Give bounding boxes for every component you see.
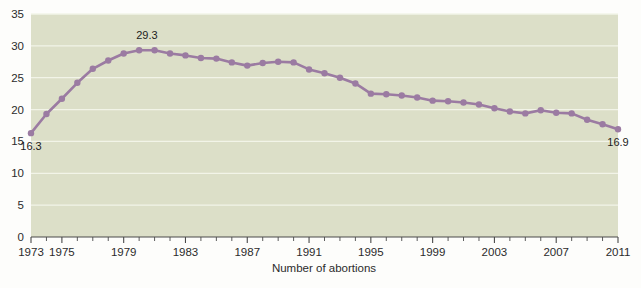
data-point-value-label: 16.9: [607, 136, 628, 148]
data-point-marker: [213, 55, 219, 61]
plot-area-background: [31, 14, 618, 237]
x-axis-tick-label: 1979: [111, 246, 137, 258]
x-axis-tick-marks: [31, 237, 618, 243]
data-point-marker: [260, 60, 266, 66]
x-axis-tick-labels: 1973197519791983198719911995199920032007…: [18, 246, 630, 258]
x-axis-tick-label: 1991: [296, 246, 322, 258]
x-axis-title: Number of abortions: [272, 262, 376, 274]
data-point-marker: [275, 59, 281, 65]
data-point-marker: [460, 99, 466, 105]
data-point-marker: [383, 91, 389, 97]
data-point-marker: [522, 110, 528, 116]
y-axis-tick-label: 5: [18, 199, 24, 211]
x-axis-tick-label: 1999: [420, 246, 446, 258]
data-point-marker: [105, 57, 111, 63]
y-axis-tick-label: 10: [11, 167, 24, 179]
data-point-marker: [28, 130, 34, 136]
data-point-marker: [244, 62, 250, 68]
data-point-marker: [538, 107, 544, 113]
data-point-marker: [399, 92, 405, 98]
data-point-marker: [553, 110, 559, 116]
data-point-marker: [182, 52, 188, 58]
data-point-marker: [306, 66, 312, 72]
data-point-marker: [74, 80, 80, 86]
data-point-marker: [151, 47, 157, 53]
data-point-marker: [321, 70, 327, 76]
x-axis-tick-label: 1975: [49, 246, 75, 258]
data-point-marker: [507, 108, 513, 114]
data-point-marker: [167, 50, 173, 56]
x-axis-tick-label: 2007: [543, 246, 569, 258]
data-point-marker: [198, 55, 204, 61]
data-point-value-label: 29.3: [136, 29, 157, 41]
x-axis-tick-label: 2011: [606, 246, 631, 258]
chart-container: 05101520253035 1973197519791983198719911…: [0, 0, 641, 288]
data-point-marker: [59, 96, 65, 102]
data-point-marker: [414, 94, 420, 100]
data-point-marker: [445, 98, 451, 104]
x-axis-tick-label: 1987: [234, 246, 260, 258]
data-point-marker: [136, 47, 142, 53]
y-axis-tick-label: 20: [11, 104, 24, 116]
line-chart: 05101520253035 1973197519791983198719911…: [0, 0, 641, 288]
x-axis-tick-label: 1995: [358, 246, 384, 258]
data-point-marker: [337, 75, 343, 81]
data-point-marker: [43, 111, 49, 117]
data-point-marker: [476, 101, 482, 107]
data-point-marker: [368, 90, 374, 96]
y-axis-tick-label: 25: [11, 72, 24, 84]
data-point-marker: [120, 50, 126, 56]
data-point-marker: [290, 59, 296, 65]
data-point-marker: [584, 117, 590, 123]
data-point-marker: [90, 66, 96, 72]
data-point-marker: [229, 59, 235, 65]
x-axis-tick-label: 1973: [18, 246, 44, 258]
data-point-marker: [352, 80, 358, 86]
y-axis-tick-labels: 05101520253035: [11, 8, 24, 243]
data-point-marker: [491, 105, 497, 111]
x-axis-tick-label: 1983: [173, 246, 199, 258]
data-point-marker: [568, 110, 574, 116]
y-axis-tick-label: 30: [11, 40, 24, 52]
data-point-marker: [429, 97, 435, 103]
y-axis-tick-label: 35: [11, 8, 24, 20]
data-point-marker: [615, 126, 621, 132]
y-axis-tick-label: 0: [18, 231, 24, 243]
data-point-value-label: 16.3: [20, 140, 41, 152]
data-point-marker: [599, 121, 605, 127]
x-axis-tick-label: 2003: [482, 246, 508, 258]
